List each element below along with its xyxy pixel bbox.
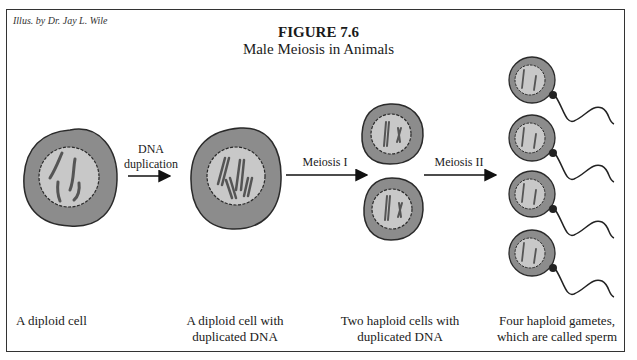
stage-label-line: duplicated DNA [325,329,475,345]
arrow-label-meiosis-2: Meiosis II [424,155,494,170]
sperm-icon [509,57,614,124]
stage-label-line: which are called sperm [482,329,632,345]
stage-label-line: duplicated DNA [165,329,305,345]
diploid-cell-icon [24,129,117,226]
stage-label-1: A diploid cell [16,313,136,329]
haploid-cell-bottom-icon [364,178,423,240]
arrow-label-dna-duplication: DNA duplication [116,142,186,172]
stage-label-line: Two haploid cells with [325,313,475,329]
stage-label-line: Four haploid gametes, [482,313,632,329]
stage-label-line: A diploid cell with [165,313,305,329]
sperm-icon [509,171,614,238]
sperm-icon [509,230,614,297]
stage-label-3: Two haploid cells with duplicated DNA [325,313,475,345]
haploid-cell-top-icon [362,104,423,164]
arrow-label-meiosis-1: Meiosis I [290,155,360,170]
arrow-label-line: DNA [116,142,186,157]
duplicated-diploid-cell-icon [191,128,281,229]
stage-label-4: Four haploid gametes, which are called s… [482,313,632,345]
sperm-cells [509,57,614,297]
arrow-label-line: duplication [116,157,186,172]
stage-label-line: A diploid cell [16,313,136,329]
stage-label-2: A diploid cell with duplicated DNA [165,313,305,345]
meiosis-diagram [0,0,637,360]
